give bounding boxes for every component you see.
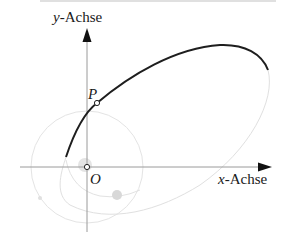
- x-axis-label-var: x: [218, 171, 225, 187]
- point-o-marker: [84, 164, 89, 169]
- diagram-canvas: y-Achse x-Achse P O: [0, 0, 284, 239]
- point-p-label: P: [88, 87, 97, 102]
- faint-blob-right: [112, 190, 122, 200]
- x-axis-label: x-Achse: [218, 172, 267, 187]
- faint-blob-left: [38, 196, 42, 200]
- diagram-svg: [0, 0, 284, 239]
- x-axis-label-suffix: -Achse: [225, 171, 267, 187]
- point-o-label: O: [90, 172, 101, 187]
- y-axis-label-suffix: -Achse: [60, 9, 102, 25]
- y-axis-label-var: y: [53, 9, 60, 25]
- y-axis-arrow-icon: [83, 28, 92, 42]
- faint-inner-arc: [66, 160, 140, 197]
- y-axis-label: y-Achse: [53, 10, 102, 25]
